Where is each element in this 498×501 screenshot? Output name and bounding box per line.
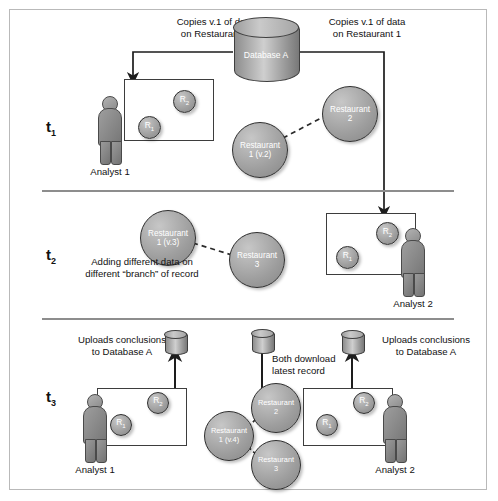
analyst1-figure-t3: Analyst 1 xyxy=(78,394,112,484)
caption-copies-right-line1: Copies v.1 of data xyxy=(302,16,432,28)
record-line1: Restaurant xyxy=(148,229,188,238)
database-a-small-center xyxy=(252,330,273,352)
timestep-label-t3: t3 xyxy=(46,388,56,408)
record-restaurant1-v4: Restaurant 1 (v.4) xyxy=(204,411,254,461)
caption-download-line2: latest record xyxy=(272,365,364,377)
caption-copies-right-line2: on Restaurant 1 xyxy=(302,28,432,40)
record-line2: 2 xyxy=(348,114,353,123)
record-restaurant3-t2: Restaurant 3 xyxy=(229,232,285,288)
database-a-cylinder: Database A xyxy=(234,18,298,80)
analyst1-screen-t1 xyxy=(124,79,214,141)
caption-copies-right: Copies v.1 of data on Restaurant 1 xyxy=(302,16,432,39)
analyst2-label-t3: Analyst 2 xyxy=(375,464,414,475)
record-restaurant1-v2: Restaurant 1 (v.2) xyxy=(232,122,288,178)
record-line1: Restaurant xyxy=(240,141,280,150)
database-cylinder-top xyxy=(233,17,299,38)
caption-branch-line2: different “branch” of record xyxy=(72,268,212,280)
screen-node-r2-t3-left: R2 xyxy=(147,392,169,414)
person-leg-left xyxy=(85,439,96,463)
person-leg-left xyxy=(403,273,414,297)
database-cylinder-top xyxy=(164,330,187,339)
analyst1-figure-t1: Analyst 1 xyxy=(93,96,127,186)
analyst2-label-t2: Analyst 2 xyxy=(393,298,432,309)
record-restaurant2-t3: Restaurant 2 xyxy=(251,383,301,433)
caption-uploads-left-line1: Uploads conclusions xyxy=(68,334,176,346)
screen-node-r1-t1: R1 xyxy=(138,116,161,139)
person-leg-right xyxy=(111,141,122,165)
person-leg-left xyxy=(100,141,111,165)
record-line1: Restaurant xyxy=(330,105,370,114)
caption-branch-line1: Adding different data on xyxy=(72,256,212,268)
caption-uploads-left: Uploads conclusions to Database A xyxy=(68,334,176,357)
database-cylinder-top xyxy=(251,329,274,338)
caption-uploads-right-line1: Uploads conclusions xyxy=(372,334,480,346)
analyst1-label-t1: Analyst 1 xyxy=(90,166,129,177)
person-leg-right xyxy=(96,439,107,463)
database-a-small-right xyxy=(342,331,363,353)
timestep-label-t1: t1 xyxy=(46,118,56,138)
analyst2-figure-t2: Analyst 2 xyxy=(396,228,430,318)
screen-node-r2-t3-right: R2 xyxy=(353,392,375,414)
record-line2: 1 (v.3) xyxy=(157,238,180,247)
screen-node-r1-t3-right: R1 xyxy=(316,414,338,436)
record-line2: 3 xyxy=(255,260,260,269)
caption-uploads-right: Uploads conclusions to Database A xyxy=(372,334,480,357)
section-divider-2 xyxy=(42,318,454,320)
caption-download: Both download latest record xyxy=(272,353,364,376)
person-leg-right xyxy=(396,439,407,463)
screen-node-r1-t3-left: R1 xyxy=(110,414,132,436)
database-a-label: Database A xyxy=(234,50,298,60)
analyst2-figure-t3: Analyst 2 xyxy=(378,394,412,484)
diagram-canvas: t1 Copies v.1 of data on Restaurant 1 Co… xyxy=(0,0,498,501)
person-leg-left xyxy=(385,439,396,463)
caption-uploads-right-line2: to Database A xyxy=(372,346,480,358)
caption-branch: Adding different data on different “bran… xyxy=(72,256,212,279)
record-restaurant3-t3: Restaurant 3 xyxy=(251,440,301,490)
database-cylinder-top xyxy=(341,330,364,339)
record-line2: 1 (v.2) xyxy=(249,150,272,159)
record-restaurant2-t1: Restaurant 2 xyxy=(322,86,378,142)
record-line1: Restaurant xyxy=(237,251,277,260)
section-divider-1 xyxy=(42,190,454,192)
screen-node-r1-t2: R1 xyxy=(336,246,359,269)
screen-node-r2-t1: R2 xyxy=(173,90,196,113)
timestep-label-t2: t2 xyxy=(46,246,56,266)
database-a-small-left xyxy=(165,331,186,353)
record-line2: 2 xyxy=(274,407,278,416)
caption-uploads-left-line2: to Database A xyxy=(68,346,176,358)
record-line2: 3 xyxy=(274,464,278,473)
person-leg-right xyxy=(414,273,425,297)
analyst1-label-t3: Analyst 1 xyxy=(75,464,114,475)
record-line2: 1 (v.4) xyxy=(219,435,239,444)
